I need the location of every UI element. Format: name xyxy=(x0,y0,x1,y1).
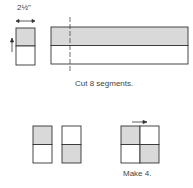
measurement-label: 2½" xyxy=(17,3,31,12)
cut-caption: Cut 8 segments. xyxy=(75,79,133,88)
segment-unit xyxy=(16,28,35,65)
press-direction-arrow-icon xyxy=(11,38,14,52)
segment-unit-b xyxy=(62,126,81,163)
strip-set xyxy=(51,27,188,64)
seam-press-arrow-icon xyxy=(132,121,147,124)
width-dimension-arrow-icon xyxy=(16,20,35,23)
make-caption: Make 4. xyxy=(123,169,151,178)
four-patch-block xyxy=(121,126,159,163)
segment-unit-a xyxy=(33,126,52,163)
quilt-diagram xyxy=(0,0,193,188)
